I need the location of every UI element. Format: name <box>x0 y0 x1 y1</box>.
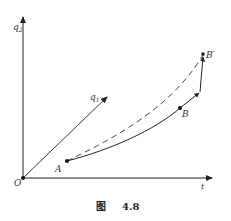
origin-label: O <box>14 178 22 188</box>
q1-axis-label: q1 <box>90 92 100 103</box>
q1-axis: q1 <box>23 92 107 178</box>
q2-axis-label: q2 <box>13 22 23 33</box>
point-A-label: A <box>54 164 62 174</box>
diagram-figure-4-8: q2 t q1 O A B <box>0 0 231 221</box>
point-A: A <box>54 159 69 174</box>
diagram-canvas: q2 t q1 O A B <box>0 0 231 221</box>
point-A-dot <box>65 159 69 163</box>
q1-axis-line <box>23 97 107 178</box>
point-B: B <box>178 106 189 119</box>
t-axis-label: t <box>201 182 205 191</box>
figure-caption: 图 4.8 <box>96 201 139 212</box>
caption-number: 4.8 <box>122 201 139 212</box>
point-B-prime: B′ <box>202 50 215 60</box>
origin-dot <box>21 176 25 180</box>
origin: O <box>14 176 25 188</box>
t-axis: t <box>23 178 212 191</box>
solid-path-step-to-B-prime <box>200 57 203 92</box>
dashed-path-A-to-B-prime <box>67 55 203 161</box>
q2-axis: q2 <box>13 17 23 178</box>
solid-path-A-to-B <box>67 108 180 161</box>
point-B-prime-label: B′ <box>205 50 215 60</box>
point-B-prime-dot <box>202 53 205 56</box>
solid-path-B-to-step <box>180 93 199 108</box>
point-B-label: B <box>181 109 189 119</box>
caption-prefix: 图 <box>96 201 106 212</box>
